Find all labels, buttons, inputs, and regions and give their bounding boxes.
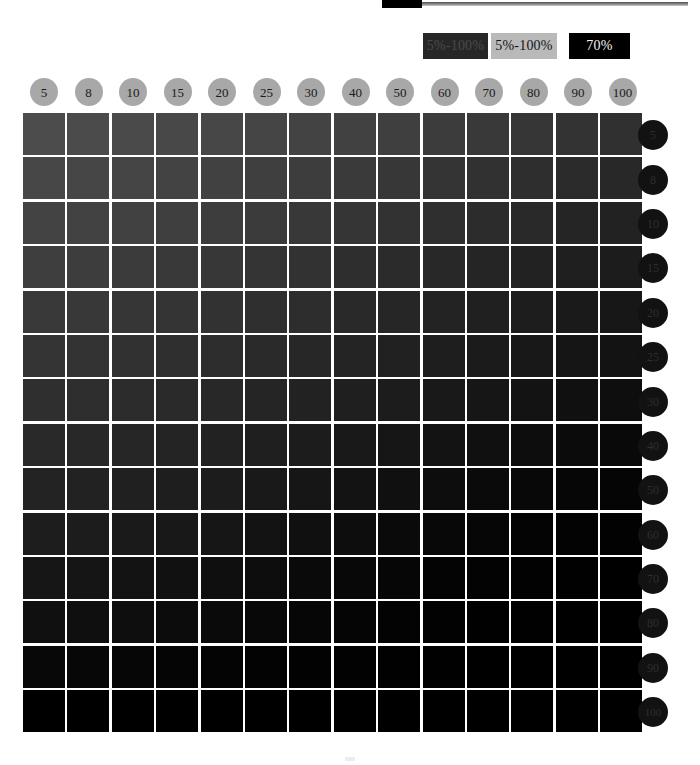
patch-5-60 — [423, 113, 465, 155]
column-header-label: 40 — [342, 78, 370, 106]
column-header-label: 60 — [431, 78, 459, 106]
row-header-5: 5 — [638, 113, 668, 157]
patch-100-30 — [289, 690, 331, 732]
patch-60-60 — [423, 513, 465, 555]
patch-90-100 — [600, 646, 642, 688]
patch-100-20 — [201, 690, 243, 732]
row-header-10: 10 — [638, 202, 668, 246]
patch-80-20 — [201, 601, 243, 643]
patch-100-100 — [600, 690, 642, 732]
patch-5-5 — [23, 113, 65, 155]
patch-15-50 — [378, 246, 420, 288]
patch-90-80 — [511, 646, 553, 688]
column-header-label: 100 — [609, 78, 637, 106]
patch-10-60 — [423, 202, 465, 244]
patch-10-20 — [201, 202, 243, 244]
patch-25-90 — [556, 335, 598, 377]
column-header-label: 80 — [520, 78, 548, 106]
column-header-40: 40 — [335, 78, 377, 106]
patch-90-5 — [23, 646, 65, 688]
ink-density-chart: 581015202530405060708090100 581015202530… — [0, 0, 700, 765]
patch-8-90 — [556, 157, 598, 199]
patch-60-70 — [467, 513, 509, 555]
patch-15-100 — [600, 246, 642, 288]
patch-80-8 — [67, 601, 109, 643]
patch-90-40 — [334, 646, 376, 688]
patch-10-25 — [245, 202, 287, 244]
patch-row — [23, 113, 644, 157]
patch-5-10 — [112, 113, 154, 155]
patch-row — [23, 246, 644, 290]
patch-40-20 — [201, 424, 243, 466]
patch-40-8 — [67, 424, 109, 466]
patch-25-40 — [334, 335, 376, 377]
patch-100-8 — [67, 690, 109, 732]
patch-100-25 — [245, 690, 287, 732]
patch-50-60 — [423, 468, 465, 510]
patch-60-5 — [23, 513, 65, 555]
patch-60-25 — [245, 513, 287, 555]
patch-row — [23, 424, 644, 468]
patch-15-8 — [67, 246, 109, 288]
column-header-row: 581015202530405060708090100 — [23, 78, 646, 106]
patch-80-80 — [511, 601, 553, 643]
patch-90-50 — [378, 646, 420, 688]
patch-25-70 — [467, 335, 509, 377]
patch-50-80 — [511, 468, 553, 510]
patch-15-10 — [112, 246, 154, 288]
patch-25-20 — [201, 335, 243, 377]
patch-8-5 — [23, 157, 65, 199]
patch-15-5 — [23, 246, 65, 288]
row-header-label: 15 — [638, 253, 668, 283]
patch-5-70 — [467, 113, 509, 155]
patch-80-40 — [334, 601, 376, 643]
patch-20-30 — [289, 291, 331, 333]
patch-10-80 — [511, 202, 553, 244]
patch-8-80 — [511, 157, 553, 199]
patch-25-15 — [156, 335, 198, 377]
patch-40-40 — [334, 424, 376, 466]
patch-20-8 — [67, 291, 109, 333]
column-header-8: 8 — [68, 78, 110, 106]
patch-90-8 — [67, 646, 109, 688]
patch-80-50 — [378, 601, 420, 643]
patch-row — [23, 557, 644, 601]
patch-50-100 — [600, 468, 642, 510]
patch-5-100 — [600, 113, 642, 155]
patch-25-100 — [600, 335, 642, 377]
patch-50-30 — [289, 468, 331, 510]
patch-90-20 — [201, 646, 243, 688]
column-header-label: 15 — [164, 78, 192, 106]
patch-10-50 — [378, 202, 420, 244]
patch-70-70 — [467, 557, 509, 599]
patch-100-15 — [156, 690, 198, 732]
patch-100-5 — [23, 690, 65, 732]
column-header-90: 90 — [557, 78, 599, 106]
patch-row — [23, 157, 644, 201]
patch-40-70 — [467, 424, 509, 466]
patch-5-30 — [289, 113, 331, 155]
patch-10-15 — [156, 202, 198, 244]
patch-60-90 — [556, 513, 598, 555]
patch-20-15 — [156, 291, 198, 333]
patch-10-30 — [289, 202, 331, 244]
patch-100-80 — [511, 690, 553, 732]
column-header-15: 15 — [157, 78, 199, 106]
patch-80-15 — [156, 601, 198, 643]
column-header-60: 60 — [424, 78, 466, 106]
patch-50-40 — [334, 468, 376, 510]
patch-90-70 — [467, 646, 509, 688]
patch-25-60 — [423, 335, 465, 377]
patch-8-20 — [201, 157, 243, 199]
column-header-label: 30 — [297, 78, 325, 106]
patch-60-20 — [201, 513, 243, 555]
patch-25-10 — [112, 335, 154, 377]
patch-30-15 — [156, 379, 198, 421]
patch-40-60 — [423, 424, 465, 466]
patch-5-25 — [245, 113, 287, 155]
patch-5-50 — [378, 113, 420, 155]
patch-20-10 — [112, 291, 154, 333]
column-header-label: 25 — [253, 78, 281, 106]
patch-25-25 — [245, 335, 287, 377]
patch-15-70 — [467, 246, 509, 288]
